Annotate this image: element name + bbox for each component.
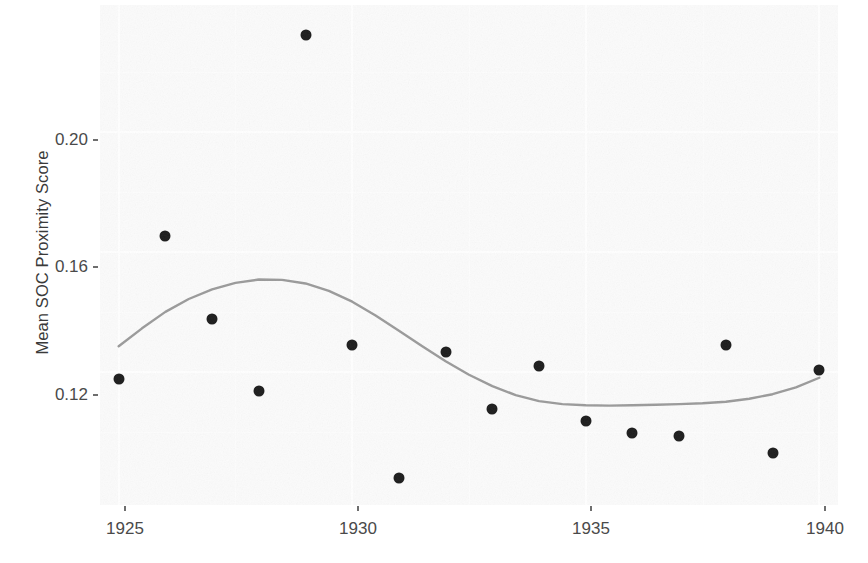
x-tick-mark-1935 <box>590 506 592 511</box>
plot-panel <box>100 5 838 505</box>
y-tick-label-0.16: 0.16 <box>28 257 88 277</box>
x-tick-label-1935: 1935 <box>551 519 631 539</box>
x-tick-mark-1925 <box>124 506 126 511</box>
y-tick-mark-0.20 <box>93 139 98 141</box>
data-point <box>534 360 545 371</box>
y-tick-mark-0.16 <box>93 266 98 268</box>
data-point <box>347 339 358 350</box>
data-point <box>814 365 825 376</box>
data-point <box>160 230 171 241</box>
data-point <box>393 473 404 484</box>
trend-line <box>100 5 838 505</box>
x-tick-label-1930: 1930 <box>318 519 398 539</box>
data-point <box>674 431 685 442</box>
data-point <box>767 447 778 458</box>
data-point <box>487 404 498 415</box>
data-point <box>207 314 218 325</box>
x-tick-label-1940: 1940 <box>785 519 865 539</box>
x-tick-mark-1940 <box>824 506 826 511</box>
data-point <box>253 386 264 397</box>
scatter-chart: Mean SOC Proximity Score 0.12 0.16 0.20 … <box>0 0 868 563</box>
data-point <box>113 374 124 385</box>
data-point <box>440 347 451 358</box>
data-point <box>720 339 731 350</box>
y-tick-mark-0.12 <box>93 394 98 396</box>
x-tick-label-1925: 1925 <box>85 519 165 539</box>
data-point <box>627 428 638 439</box>
x-tick-mark-1930 <box>357 506 359 511</box>
y-tick-label-0.20: 0.20 <box>28 130 88 150</box>
data-point <box>580 416 591 427</box>
y-tick-label-0.12: 0.12 <box>28 385 88 405</box>
data-point <box>300 29 311 40</box>
